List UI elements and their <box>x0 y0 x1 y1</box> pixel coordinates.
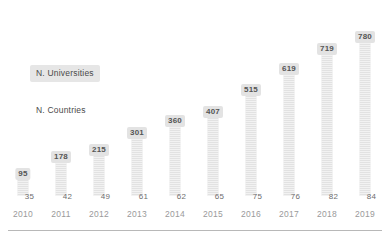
countries-value-label: 35 <box>4 191 42 203</box>
bar-universities[interactable] <box>132 136 143 196</box>
legend-universities-wrap: N. Universities <box>30 62 160 82</box>
countries-value-row: 35424961626575768284 <box>0 191 389 203</box>
bar-value-label: 215 <box>89 144 109 156</box>
bar-value-label: 515 <box>241 84 261 96</box>
bar-universities[interactable] <box>360 40 371 196</box>
x-axis-tick-label: 2019 <box>346 207 384 221</box>
bar-universities[interactable] <box>208 115 219 196</box>
bar-chart: 95178215301360407515619719780 3542496162… <box>0 0 389 241</box>
bar-universities[interactable] <box>94 153 105 196</box>
bar-value-label: 95 <box>15 168 30 180</box>
bar-value-label: 780 <box>355 31 375 43</box>
x-axis-tick-label: 2018 <box>308 207 346 221</box>
bar-value-label: 619 <box>279 63 299 75</box>
countries-value-label: 76 <box>270 191 308 203</box>
bar-group: 719 <box>308 0 346 207</box>
bar-value-label: 301 <box>127 127 147 139</box>
bar-value-label: 719 <box>317 43 337 55</box>
countries-value-label: 42 <box>42 191 80 203</box>
bar-group: 515 <box>232 0 270 207</box>
countries-value-label: 82 <box>308 191 346 203</box>
legend-item-universities: N. Universities <box>30 65 100 82</box>
bar-value-label: 360 <box>165 115 185 127</box>
countries-value-label: 61 <box>118 191 156 203</box>
x-axis-tick-label: 2014 <box>156 207 194 221</box>
countries-value-label: 62 <box>156 191 194 203</box>
bar-group: 360 <box>156 0 194 207</box>
bar-universities[interactable] <box>246 93 257 196</box>
countries-value-label: 49 <box>80 191 118 203</box>
x-axis-tick-label: 2013 <box>118 207 156 221</box>
bar-group: 619 <box>270 0 308 207</box>
x-axis-tick-label: 2015 <box>194 207 232 221</box>
countries-value-label: 65 <box>194 191 232 203</box>
bar-universities[interactable] <box>284 72 295 196</box>
bar-group: 780 <box>346 0 384 207</box>
x-axis-tick-label: 2011 <box>42 207 80 221</box>
countries-value-label: 84 <box>346 191 384 203</box>
legend-countries-wrap: N. Countries <box>30 99 160 117</box>
bar-group: 407 <box>194 0 232 207</box>
countries-value-label: 75 <box>232 191 270 203</box>
bottom-divider-rule <box>8 230 382 231</box>
bar-universities[interactable] <box>170 124 181 196</box>
bar-universities[interactable] <box>322 52 333 196</box>
x-axis-tick-label: 2016 <box>232 207 270 221</box>
chart-legend: N. Universities N. Countries <box>30 62 160 117</box>
x-axis-tick-label: 2017 <box>270 207 308 221</box>
legend-item-countries: N. Countries <box>36 104 86 117</box>
bar-value-label: 178 <box>51 151 71 163</box>
x-axis-year-labels: 2010201120122013201420152016201720182019 <box>0 207 389 221</box>
x-axis-tick-label: 2012 <box>80 207 118 221</box>
bar-value-label: 407 <box>203 106 223 118</box>
x-axis-tick-label: 2010 <box>4 207 42 221</box>
